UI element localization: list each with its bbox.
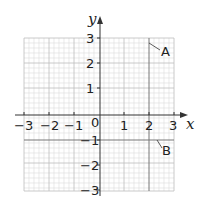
- x-axis-label: x: [186, 115, 195, 133]
- label-a-leader: [149, 43, 160, 50]
- line-b-label: B: [162, 143, 171, 158]
- x-tick-label: 1: [120, 118, 128, 133]
- x-tick-label: 2: [145, 118, 153, 133]
- y-axis-label: y: [87, 10, 97, 28]
- origin-label: 0: [91, 115, 99, 130]
- x-tick-label: −1: [64, 118, 83, 133]
- y-axis-arrow-icon: [97, 16, 103, 24]
- x-tick-label: 3: [169, 118, 177, 133]
- y-tick-label: −2: [80, 158, 99, 173]
- coordinate-grid-diagram: −3 −2 −1 0 1 2 3 3 2 1 −1 −2 −3 x y A B: [0, 0, 202, 200]
- y-tick-label: −1: [80, 133, 99, 148]
- y-tick-label: 2: [86, 56, 94, 71]
- y-tick-label: 1: [86, 81, 94, 96]
- x-tick-label: −2: [40, 118, 59, 133]
- y-tick-label: −3: [80, 183, 99, 198]
- x-tick-label: −3: [14, 118, 33, 133]
- y-tick-label: 3: [86, 31, 94, 46]
- line-a-label: A: [161, 44, 170, 59]
